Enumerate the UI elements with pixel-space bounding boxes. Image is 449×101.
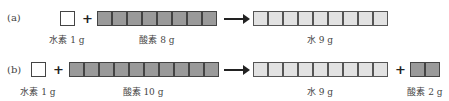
oxygen-block (84, 62, 99, 77)
caption-water: 水 9 g (307, 33, 333, 46)
oxygen-block (69, 62, 84, 77)
hydrogen-block (31, 62, 46, 77)
oxygen-block (172, 11, 187, 26)
hydrogen-block (60, 11, 75, 26)
row-b-label: (b) (7, 64, 21, 75)
water-block (298, 11, 313, 26)
plus-sign: + (53, 63, 64, 76)
water-block (358, 11, 373, 26)
caption-water: 水 9 g (307, 85, 333, 98)
arrow-right-icon (224, 69, 248, 71)
caption-hydrogen: 水素 1 g (49, 33, 84, 46)
oxygen-block (187, 11, 202, 26)
oxygen-block (127, 11, 142, 26)
oxygen-block (99, 62, 114, 77)
oxygen-block (204, 62, 219, 77)
water-block (358, 62, 373, 77)
caption-oxygen: 酸素 8 g (139, 33, 174, 46)
oxygen-block (425, 62, 440, 77)
water-block (283, 11, 298, 26)
oxygen-block (410, 62, 425, 77)
oxygen-block (112, 11, 127, 26)
plus-sign: + (82, 12, 93, 25)
oxygen-block (144, 62, 159, 77)
caption-hydrogen: 水素 1 g (20, 85, 55, 98)
oxygen-block (129, 62, 144, 77)
arrow-right-icon (224, 18, 248, 20)
row-a-label: (a) (7, 12, 21, 23)
oxygen-block (189, 62, 204, 77)
water-block (328, 62, 343, 77)
water-block (313, 62, 328, 77)
water-block (313, 11, 328, 26)
water-block (328, 11, 343, 26)
water-block (343, 62, 358, 77)
oxygen-block (97, 11, 112, 26)
water-block (253, 11, 268, 26)
water-block (373, 62, 388, 77)
oxygen-block (159, 62, 174, 77)
water-block (268, 11, 283, 26)
water-block (343, 11, 358, 26)
water-block (298, 62, 313, 77)
oxygen-block (202, 11, 217, 26)
oxygen-block (174, 62, 189, 77)
plus-sign: + (395, 63, 406, 76)
water-block (373, 11, 388, 26)
oxygen-block (157, 11, 172, 26)
caption-oxygen: 酸素 10 g (123, 85, 164, 98)
water-block (268, 62, 283, 77)
oxygen-block (142, 11, 157, 26)
water-block (283, 62, 298, 77)
water-block (253, 62, 268, 77)
caption-leftover-oxygen: 酸素 2 g (407, 85, 442, 98)
oxygen-block (114, 62, 129, 77)
